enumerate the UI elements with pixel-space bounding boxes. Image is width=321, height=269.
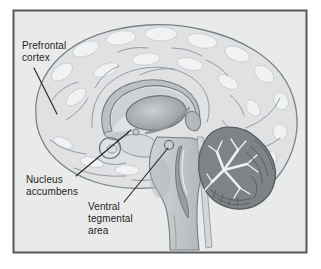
label-nucleus-accumbens: Nucleus accumbens: [26, 174, 78, 198]
vta-circle: [165, 141, 174, 150]
anterior-commissure: [133, 129, 139, 135]
label-prefrontal-cortex: Prefrontal cortex: [22, 40, 66, 64]
figure-panel: Prefrontal cortex Nucleus accumbens Vent…: [0, 0, 321, 269]
pons-shading: [150, 158, 170, 198]
label-ventral-tegmental-area: Ventral tegmental area: [88, 201, 133, 237]
